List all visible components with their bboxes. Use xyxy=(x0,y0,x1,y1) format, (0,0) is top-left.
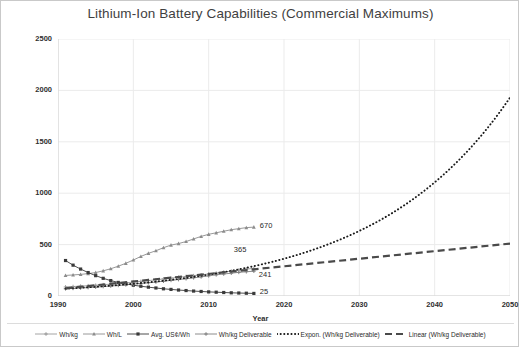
dotted-line xyxy=(277,330,299,338)
plot-area xyxy=(58,39,510,296)
legend-item-expon-wh-kg-deliverable[interactable]: Expon. (Wh/kg Deliverable) xyxy=(277,330,380,338)
legend-label: Wh/kg xyxy=(59,331,77,338)
chart-legend: Wh/kgWh/LAvg. US¢/WhWh/kg DeliverableExp… xyxy=(1,330,520,338)
series-linear-wh-kg-deliverable xyxy=(66,244,510,289)
y-tick-label: 0 xyxy=(6,291,52,300)
x-tick-label: 2050 xyxy=(485,300,521,309)
x-tick-label: 2010 xyxy=(184,300,234,309)
legend-item-avg-us-wh[interactable]: Avg. US¢/Wh xyxy=(127,330,190,338)
triangle-marker xyxy=(83,330,105,338)
y-tick-label: 2500 xyxy=(6,34,52,43)
square-marker xyxy=(127,330,149,338)
chart-frame: Lithium-Ion Battery Capabilities (Commer… xyxy=(0,0,519,347)
legend-label: Wh/L xyxy=(107,331,122,338)
x-tick-label: 1990 xyxy=(33,300,83,309)
series-wh-l xyxy=(64,225,256,277)
legend-item-wh-kg[interactable]: Wh/kg xyxy=(35,330,77,338)
gridlines xyxy=(58,39,510,296)
legend-label: Expon. (Wh/kg Deliverable) xyxy=(301,331,380,338)
y-tick-label: 1500 xyxy=(6,137,52,146)
legend-item-linear-wh-kg-deliverable[interactable]: Linear (Wh/kg Deliverable) xyxy=(385,330,486,338)
x-tick-label: 2030 xyxy=(334,300,384,309)
x-tick-label: 2000 xyxy=(108,300,158,309)
legend-label: Avg. US¢/Wh xyxy=(151,331,190,338)
dashed-line xyxy=(385,330,407,338)
cross-marker xyxy=(195,330,217,338)
data-label-25: 25 xyxy=(260,287,268,296)
data-label-670: 670 xyxy=(260,221,273,230)
plot-svg xyxy=(58,39,510,296)
x-axis-title: Year xyxy=(1,314,520,323)
y-tick-label: 1000 xyxy=(6,188,52,197)
y-tick-label: 2000 xyxy=(6,85,52,94)
legend-label: Wh/kg Deliverable xyxy=(219,331,272,338)
legend-label: Linear (Wh/kg Deliverable) xyxy=(409,331,486,338)
x-tick-label: 2020 xyxy=(259,300,309,309)
legend-item-wh-l[interactable]: Wh/L xyxy=(83,330,122,338)
x-tick-label: 2040 xyxy=(410,300,460,309)
chart-title: Lithium-Ion Battery Capabilities (Commer… xyxy=(1,6,520,21)
cross-marker xyxy=(35,330,57,338)
data-label-365: 365 xyxy=(234,245,247,254)
series-avg-us-wh xyxy=(64,259,256,295)
legend-divider xyxy=(7,323,514,324)
y-tick-label: 500 xyxy=(6,240,52,249)
data-label-241: 241 xyxy=(259,270,272,279)
legend-item-wh-kg-deliverable[interactable]: Wh/kg Deliverable xyxy=(195,330,272,338)
data-series-layer xyxy=(64,98,510,295)
